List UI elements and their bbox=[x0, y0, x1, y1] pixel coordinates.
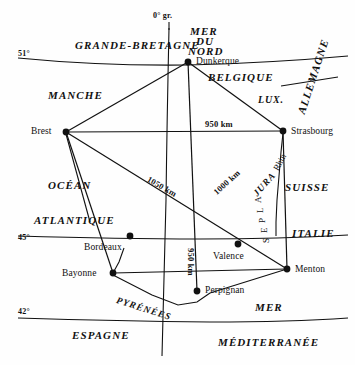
city-dot-strasbourg bbox=[280, 128, 287, 135]
city-dot-brest bbox=[63, 129, 70, 136]
city-dot-valence bbox=[235, 241, 242, 248]
distance-network-group bbox=[66, 62, 287, 291]
germany-leader-line bbox=[281, 77, 338, 86]
segment-brest-dunkerque bbox=[66, 62, 188, 132]
parallel-51-line bbox=[18, 56, 348, 65]
ocean-leader-line bbox=[66, 134, 90, 222]
city-dot-bayonne bbox=[110, 270, 117, 277]
mediterranean-coast-line bbox=[210, 269, 287, 293]
france-distance-map: 0° gr. 51° 45° 42° GRANDE-BRETAGNE MER D… bbox=[0, 0, 355, 365]
city-dot-menton bbox=[284, 266, 291, 273]
segment-brest-bayonne bbox=[66, 132, 113, 273]
city-dot-dunkerque bbox=[185, 59, 192, 66]
city-dot-bordeaux bbox=[127, 233, 134, 240]
graticule-group bbox=[18, 22, 348, 356]
segment-strasbourg-menton bbox=[283, 131, 287, 269]
segment-bayonne-menton bbox=[113, 269, 287, 273]
parallel-45-line bbox=[18, 235, 348, 239]
segment-brest-strasbourg bbox=[66, 131, 283, 132]
segment-dunkerque-perpignan bbox=[188, 62, 197, 291]
segment-dunkerque-strasbourg bbox=[188, 62, 283, 131]
rhine-border-line bbox=[276, 133, 283, 222]
map-vector-layer bbox=[0, 0, 355, 365]
parallel-42-line bbox=[18, 318, 348, 322]
city-dot-perpignan bbox=[194, 288, 201, 295]
